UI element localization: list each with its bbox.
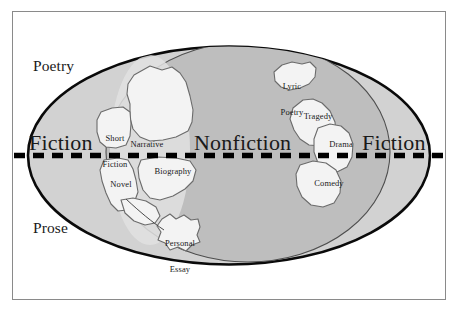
- literature-map-graphic: [0, 0, 459, 321]
- region-short-fiction-shape: [97, 107, 131, 148]
- region-narrative-shape: [127, 66, 193, 141]
- diagram-canvas: Poetry Prose Fiction Nonfiction Fiction …: [0, 0, 459, 321]
